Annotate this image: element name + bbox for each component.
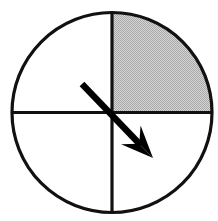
spinner-figure: [0, 0, 218, 221]
spinner-svg: [0, 0, 218, 221]
